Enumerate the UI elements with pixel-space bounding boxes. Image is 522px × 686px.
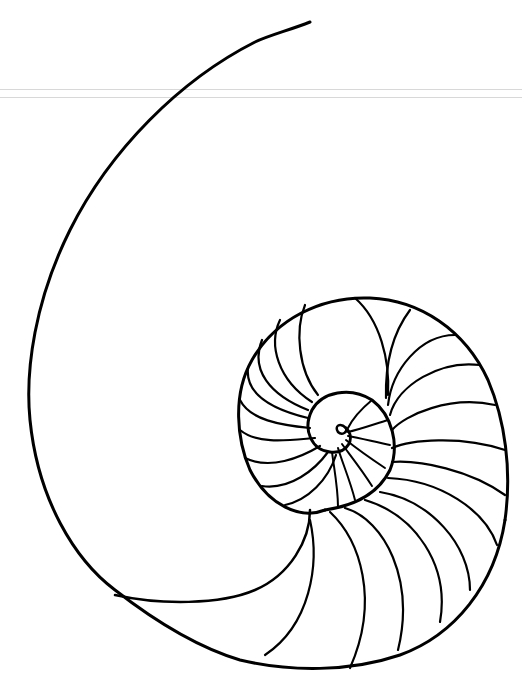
outer-shell-curve [29, 22, 505, 668]
inner-septa [332, 400, 390, 507]
whorl-core [337, 425, 347, 434]
nautilus-drawing [0, 0, 522, 686]
bottom-chamber-boundary [115, 510, 310, 602]
